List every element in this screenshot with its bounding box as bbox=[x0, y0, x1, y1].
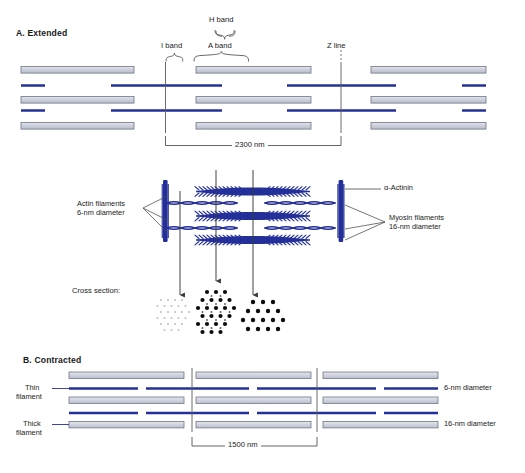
thick-filament-bar bbox=[371, 97, 486, 104]
cross-section-overlap bbox=[196, 290, 236, 334]
thick-filament-bar bbox=[323, 372, 438, 378]
thick-filament-bar bbox=[69, 422, 184, 428]
thin-filament-label-line2: filament bbox=[16, 393, 42, 402]
thick-filament-bar bbox=[196, 67, 311, 74]
thick-filament-bar bbox=[21, 97, 134, 104]
i-band-bracket bbox=[166, 53, 183, 62]
panel-a-z-lines bbox=[166, 50, 342, 133]
thick-filament-bar bbox=[196, 422, 311, 428]
thick-filament-bar bbox=[371, 67, 486, 74]
thick-filament-bar bbox=[196, 372, 311, 378]
cross-section-thick-only bbox=[241, 300, 285, 331]
cross-section-label: Cross section: bbox=[72, 287, 120, 296]
panel-b-filaments bbox=[69, 372, 438, 428]
h-band-bracket bbox=[215, 30, 234, 39]
a-band-bracket bbox=[194, 51, 249, 61]
thick-filament-bar bbox=[69, 397, 184, 403]
h-band-span bbox=[216, 31, 235, 36]
myosin-thick-filament bbox=[195, 187, 310, 197]
thick-filament-bar bbox=[196, 97, 311, 104]
h-band-label: H band bbox=[209, 16, 234, 25]
thick-filament-bar bbox=[69, 372, 184, 378]
dimension-2300-label: 2300 nm bbox=[232, 141, 268, 150]
myosin-leader-lines bbox=[345, 205, 385, 240]
a-band-label: A band bbox=[208, 42, 232, 51]
thick-filament-bar bbox=[21, 67, 134, 74]
figure-canvas: A. Extended H band I band A band Z line … bbox=[0, 0, 525, 473]
midsection-detail bbox=[143, 170, 385, 295]
panel-a-filaments bbox=[21, 67, 486, 130]
panel-b-leader-lines bbox=[52, 389, 69, 425]
alpha-actinin-label: α-Actinin bbox=[384, 184, 413, 193]
thick-filament-bar bbox=[371, 123, 486, 130]
thin-diameter-label: 6-nm diameter bbox=[444, 384, 492, 393]
thick-filament-bar bbox=[323, 397, 438, 403]
panel-a-title: A. Extended bbox=[16, 28, 67, 38]
dimension-1500-label: 1500 nm bbox=[225, 441, 261, 450]
thick-filament-bar bbox=[323, 422, 438, 428]
diagram-svg bbox=[0, 0, 525, 473]
myosin-thick-filament bbox=[195, 211, 310, 221]
z-line-label: Z line bbox=[327, 42, 346, 51]
actin-filaments-label-line2: 6-nm diameter bbox=[77, 209, 125, 218]
cross-section-thin-only bbox=[156, 299, 190, 331]
thick-filament-label-line2: filament bbox=[16, 429, 42, 438]
i-band-label: I band bbox=[161, 42, 182, 51]
myosin-thick-filament bbox=[195, 235, 310, 245]
myosin-thick-filament-group bbox=[195, 187, 310, 245]
myosin-filaments-label-line2: 16-nm diameter bbox=[389, 223, 441, 232]
thick-filament-bar bbox=[196, 397, 311, 403]
panel-b-title: B. Contracted bbox=[23, 355, 81, 365]
thick-diameter-label: 16-nm diameter bbox=[444, 420, 496, 429]
thick-filament-bar bbox=[21, 123, 134, 130]
thick-filament-bar bbox=[196, 123, 311, 130]
